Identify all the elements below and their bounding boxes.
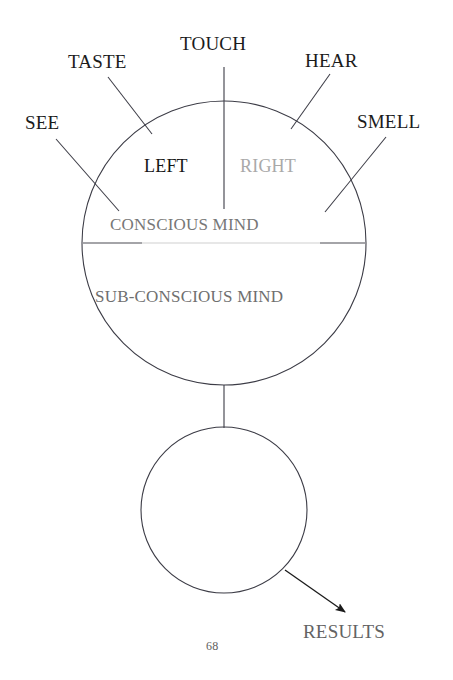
page-number: 68 [206, 640, 218, 652]
hemisphere-label-left: LEFT [144, 157, 188, 175]
output-label-results: RESULTS [303, 622, 385, 641]
see-leader-line [56, 139, 119, 211]
hear-leader-line [291, 74, 330, 129]
output-circle [141, 427, 307, 593]
sense-label-see: SEE [25, 113, 59, 132]
mind-diagram: SEE TASTE TOUCH HEAR SMELL LEFT RIGHT CO… [0, 0, 453, 680]
sense-label-smell: SMELL [357, 112, 420, 131]
sense-label-touch: TOUCH [180, 34, 246, 53]
diagram-canvas [0, 0, 453, 680]
band-label-subconscious-mind: SUB-CONSCIOUS MIND [95, 288, 283, 305]
band-label-conscious-mind: CONSCIOUS MIND [110, 216, 259, 233]
hemisphere-label-right: RIGHT [240, 157, 296, 175]
sense-label-hear: HEAR [305, 51, 358, 70]
sense-label-taste: TASTE [68, 52, 127, 71]
results-arrow [285, 570, 345, 612]
smell-leader-line [325, 137, 386, 212]
taste-leader-line [108, 77, 152, 134]
